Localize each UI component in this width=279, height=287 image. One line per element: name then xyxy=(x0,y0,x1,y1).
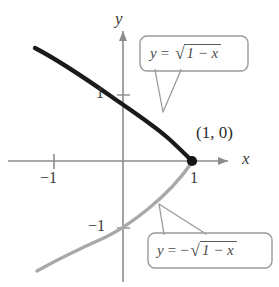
lower-callout-pointer xyxy=(159,204,206,234)
y-axis-label: y xyxy=(115,10,123,27)
radical-sign-icon: √ xyxy=(175,45,184,62)
upper-callout-radicand: 1 − x xyxy=(184,44,221,61)
y-tick-label-minus-1: −1 xyxy=(88,218,105,234)
upper-callout-sqrt: √1 − x xyxy=(173,44,221,61)
upper-callout-text: y=√1 − x xyxy=(150,44,221,61)
upper-callout-pointer xyxy=(155,70,181,112)
upper-callout-eq: = xyxy=(157,45,173,61)
figure-container: y x 1 −1 −1 1 (1, 0) y=√1 − x y=−√1 − x xyxy=(0,0,279,287)
point-1-0-marker xyxy=(187,156,197,166)
lower-callout-radicand: 1 − x xyxy=(200,241,237,258)
lower-callout-eq: = xyxy=(164,242,180,258)
x-axis-arrowhead xyxy=(218,157,228,165)
x-axis-label: x xyxy=(242,150,250,167)
lower-callout-sqrt: √1 − x xyxy=(189,241,237,258)
y-axis-arrowhead xyxy=(119,31,127,41)
lower-callout-lhs: y xyxy=(157,242,164,258)
radical-sign-icon: √ xyxy=(191,242,200,259)
x-tick-label-minus-1: −1 xyxy=(40,170,57,186)
x-tick-label-1: 1 xyxy=(190,170,198,186)
y-tick-label-1: 1 xyxy=(96,85,104,101)
curve-upper-branch xyxy=(35,48,192,161)
graph-canvas xyxy=(0,0,279,287)
lower-callout-sign: − xyxy=(180,242,188,258)
lower-callout-text: y=−√1 − x xyxy=(157,241,237,258)
upper-callout-lhs: y xyxy=(150,45,157,61)
point-1-0-label: (1, 0) xyxy=(196,124,233,141)
